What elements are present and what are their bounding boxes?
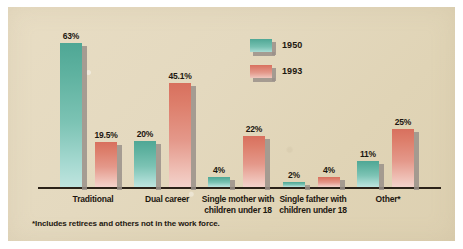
bar-other-1950[interactable]: 11% xyxy=(357,161,379,187)
bar-single-father-1950[interactable]: 2% xyxy=(283,182,305,187)
bar-dual-career-1950[interactable]: 20% xyxy=(134,141,156,187)
bar-single-mother-1993[interactable]: 22% xyxy=(243,136,265,187)
legend-label-1993: 1993 xyxy=(282,66,302,76)
bar-shadow xyxy=(156,144,161,190)
bar-shadow xyxy=(340,180,345,190)
legend-item-1950[interactable]: 1950 xyxy=(250,39,330,61)
bar-shadow xyxy=(305,185,310,190)
bar-single-mother-1950[interactable]: 4% xyxy=(208,177,230,187)
legend-label-1950: 1950 xyxy=(282,40,302,50)
category-label-line1: Other* xyxy=(338,194,438,205)
chart-panel: 63% 19.5% Traditional 20% 45.1% Dual car… xyxy=(8,7,455,241)
legend-swatch-1993 xyxy=(250,65,272,78)
bar-other-1993[interactable]: 25% xyxy=(392,129,414,187)
bar-shadow xyxy=(230,180,235,190)
plot-area: 63% 19.5% Traditional 20% 45.1% Dual car… xyxy=(8,7,455,241)
bar-shadow xyxy=(82,46,87,190)
bar-fill xyxy=(208,177,230,187)
bar-fill xyxy=(318,177,340,187)
legend-item-1993[interactable]: 1993 xyxy=(250,65,330,87)
category-label-other: Other* xyxy=(338,194,438,205)
bar-single-father-1993[interactable]: 4% xyxy=(318,177,340,187)
legend-swatch-1950 xyxy=(250,39,272,52)
bar-traditional-1993[interactable]: 19.5% xyxy=(95,142,117,187)
chart-footnote: *Includes retirees and others not in the… xyxy=(32,219,220,228)
bar-shadow xyxy=(379,164,384,190)
bar-dual-career-1993[interactable]: 45.1% xyxy=(169,83,191,187)
bar-value-label: 4% xyxy=(302,165,356,175)
bar-value-label: 63% xyxy=(44,31,98,41)
bar-shadow xyxy=(414,132,419,190)
chart-legend: 1950 1993 xyxy=(250,39,330,91)
bar-fill xyxy=(392,129,414,187)
bar-fill xyxy=(95,142,117,187)
bar-fill xyxy=(357,161,379,187)
bar-value-label: 45.1% xyxy=(153,71,207,81)
bar-value-label: 20% xyxy=(118,129,172,139)
bar-value-label: 4% xyxy=(192,165,246,175)
bar-fill xyxy=(134,141,156,187)
bar-traditional-1950[interactable]: 63% xyxy=(60,43,82,187)
bar-fill xyxy=(60,43,82,187)
bar-value-label: 25% xyxy=(376,117,430,127)
category-label-line2: children under 18 xyxy=(263,205,363,216)
bar-value-label: 11% xyxy=(341,149,395,159)
legend-swatch-shadow-side xyxy=(272,68,276,81)
legend-swatch-shadow-side xyxy=(272,42,276,55)
bar-shadow xyxy=(265,139,270,190)
bar-fill xyxy=(243,136,265,187)
bar-value-label: 22% xyxy=(227,124,281,134)
bar-shadow xyxy=(117,145,122,190)
bar-fill xyxy=(169,83,191,187)
bar-fill xyxy=(283,182,305,187)
